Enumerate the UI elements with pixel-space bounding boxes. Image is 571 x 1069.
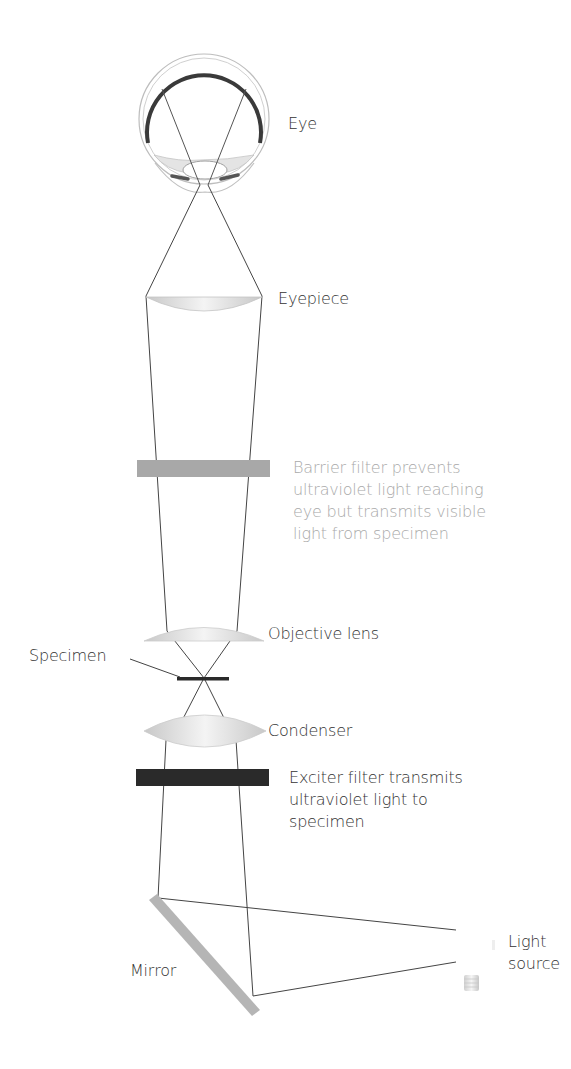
barrier-filter-line: light from specimen <box>293 523 486 545</box>
condenser-lens <box>144 715 266 747</box>
label-light-source: Light source <box>508 931 560 975</box>
label-exciter-filter: Exciter filter transmits ultraviolet lig… <box>289 767 463 833</box>
objective-lens <box>144 628 264 642</box>
label-mirror: Mirror <box>130 960 176 982</box>
barrier-filter-line: ultraviolet light reaching <box>293 479 486 501</box>
exciter-filter <box>136 769 269 786</box>
label-barrier-filter: Barrier filter prevents ultraviolet ligh… <box>293 457 486 545</box>
label-specimen: Specimen <box>29 645 106 667</box>
exciter-filter-line: ultraviolet light to <box>289 789 463 811</box>
barrier-filter <box>137 460 270 477</box>
light-source-line: Light <box>508 931 560 953</box>
label-objective-lens: Objective lens <box>268 623 379 645</box>
specimen-slide <box>177 677 229 681</box>
exciter-filter-line: Exciter filter transmits <box>289 767 463 789</box>
eye-illustration <box>139 54 269 192</box>
barrier-filter-line: Barrier filter prevents <box>293 457 486 479</box>
label-eyepiece: Eyepiece <box>278 288 349 310</box>
barrier-filter-line: eye but transmits visible <box>293 501 486 523</box>
mirror <box>149 894 260 1016</box>
exciter-filter-line: specimen <box>289 811 463 833</box>
label-eye: Eye <box>288 113 317 135</box>
light-source-line: source <box>508 953 560 975</box>
label-condenser: Condenser <box>268 720 352 742</box>
eyepiece-lens <box>146 297 262 311</box>
light-bulb-icon <box>464 940 495 991</box>
specimen-leader-line <box>130 659 180 677</box>
